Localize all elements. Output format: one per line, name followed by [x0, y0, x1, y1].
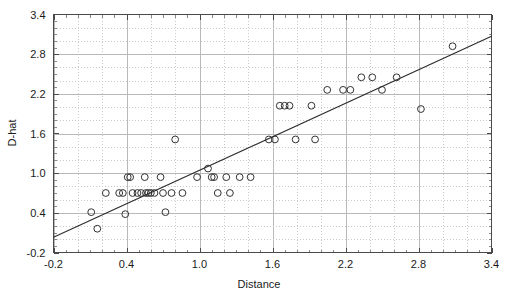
x-tick-label: 3.4	[484, 258, 499, 270]
data-point-marker	[418, 106, 425, 113]
data-point-marker	[179, 190, 186, 197]
data-point-marker	[157, 174, 164, 181]
data-point-marker	[324, 86, 331, 93]
y-tick-label: -0.2	[27, 247, 46, 259]
x-tick-label: 0.4	[119, 258, 134, 270]
data-point-marker	[369, 74, 376, 81]
data-point-marker	[347, 86, 354, 93]
data-point-marker	[223, 174, 230, 181]
grid-lines	[54, 15, 492, 253]
data-point-marker	[160, 190, 167, 197]
data-point-marker	[449, 43, 456, 50]
data-point-marker	[312, 136, 319, 143]
x-tick-label: 2.8	[411, 258, 426, 270]
x-tick-label: 1.0	[192, 258, 207, 270]
data-point-marker	[358, 74, 365, 81]
data-point-marker	[162, 209, 169, 216]
data-point-marker	[340, 86, 347, 93]
y-tick-label: 3.4	[30, 9, 45, 21]
data-point-marker	[102, 190, 109, 197]
data-point-marker	[308, 102, 315, 109]
x-axis-title: Distance	[238, 278, 281, 290]
plot-frame	[54, 15, 492, 253]
regression-line	[54, 36, 492, 237]
scatter-plot-figure: -0.20.41.01.62.22.83.4 -0.20.41.01.62.22…	[0, 0, 518, 295]
data-point-marker	[227, 190, 234, 197]
data-point-marker	[214, 190, 221, 197]
y-axis-tick-labels: -0.20.41.01.62.22.83.4	[27, 9, 46, 259]
chart-canvas: -0.20.41.01.62.22.83.4 -0.20.41.01.62.22…	[0, 0, 518, 295]
data-point-marker	[236, 174, 243, 181]
data-point-marker	[168, 190, 175, 197]
y-tick-label: 2.2	[30, 88, 45, 100]
y-tick-label: 1.6	[30, 128, 45, 140]
y-tick-label: 1.0	[30, 167, 45, 179]
data-point-marker	[194, 174, 201, 181]
y-axis-title: D-hat	[6, 120, 18, 147]
x-tick-label: -0.2	[44, 258, 63, 270]
data-point-marker	[141, 174, 148, 181]
x-axis-tick-labels: -0.20.41.01.62.22.83.4	[44, 258, 499, 270]
data-point-marker	[292, 136, 299, 143]
data-point-marker	[88, 209, 95, 216]
data-point-marker	[286, 102, 293, 109]
data-point-marker	[172, 136, 179, 143]
y-tick-label: 0.4	[30, 207, 45, 219]
x-tick-label: 2.2	[338, 258, 353, 270]
x-tick-label: 1.6	[265, 258, 280, 270]
data-point-marker	[94, 225, 101, 232]
y-tick-label: 2.8	[30, 48, 45, 60]
